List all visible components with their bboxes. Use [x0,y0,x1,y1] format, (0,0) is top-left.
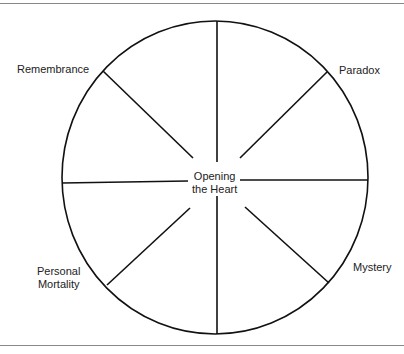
label-paradox: Paradox [339,64,380,77]
label-personal-mortality: Personal Mortality [37,265,80,291]
label-personal-line2: Mortality [37,278,80,291]
spoke-southeast [245,207,329,283]
label-remembrance: Remembrance [17,63,89,76]
center-label-line2: the Heart [192,183,237,196]
center-label-line1: Opening [192,170,237,183]
label-personal-line1: Personal [37,265,80,278]
spoke-southwest [107,208,190,285]
spoke-west [62,181,188,183]
spoke-northwest [103,71,193,158]
center-label: Opening the Heart [191,170,238,196]
spoke-northeast [240,72,327,158]
label-mystery: Mystery [353,261,392,274]
